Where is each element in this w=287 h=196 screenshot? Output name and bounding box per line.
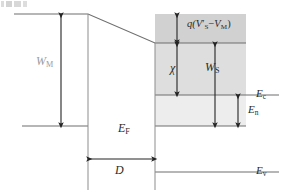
label-valence-band: Ev (256, 165, 266, 177)
label-work-function-metal: WM (36, 55, 53, 69)
label-separation: D (115, 164, 124, 176)
label-work-function-semiconductor: WS (205, 61, 220, 75)
label-potential-difference: q(V′S−VM) (187, 19, 231, 31)
label-fermi-level: EF (118, 122, 130, 136)
shade-affinity-region (155, 43, 246, 95)
label-en-level: En (248, 104, 258, 116)
label-conduction-band: Ec (256, 88, 266, 100)
label-electron-affinity: χ (170, 62, 175, 74)
band-diagram-canvas (0, 0, 287, 196)
shade-bandgap-upper-region (155, 95, 246, 126)
energy-band-diagram: WM q(V′S−VM) χ WS EF Ec En Ev D (0, 0, 287, 196)
